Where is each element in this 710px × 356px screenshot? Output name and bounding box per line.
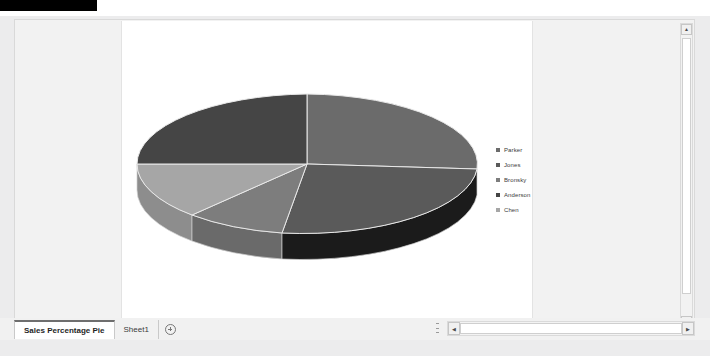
vertical-scrollbar[interactable]: ▲ ▼ (680, 23, 693, 328)
application-frame: Parker Jones Bronsky Anderson Chen (0, 16, 710, 356)
chart-object[interactable]: Parker Jones Bronsky Anderson Chen (121, 21, 533, 323)
legend-label: Bronsky (504, 177, 526, 183)
legend-swatch-jones (496, 163, 500, 167)
pie-chart-3d[interactable] (122, 21, 534, 323)
legend-item[interactable]: Bronsky (496, 173, 556, 187)
legend-item[interactable]: Chen (496, 203, 556, 217)
sheet-tab-bar: Sales Percentage Pie Sheet1 ◀ ▶ (0, 318, 710, 340)
scroll-up-arrow-icon[interactable]: ▲ (681, 24, 692, 35)
legend-label: Parker (504, 147, 522, 153)
legend-item[interactable]: Jones (496, 158, 556, 172)
add-sheet-button[interactable] (159, 320, 183, 339)
legend-swatch-anderson (496, 193, 500, 197)
horizontal-scrollbar-thumb[interactable] (460, 323, 682, 334)
vertical-scrollbar-thumb[interactable] (682, 38, 691, 294)
sheet-tab-sales-percentage-pie[interactable]: Sales Percentage Pie (14, 320, 115, 339)
legend-swatch-chen (496, 208, 500, 212)
horizontal-scrollbar[interactable]: ◀ ▶ (447, 321, 695, 336)
legend-label: Anderson (504, 192, 531, 198)
plus-circle-icon (165, 324, 176, 335)
legend-item[interactable]: Anderson (496, 188, 556, 202)
worksheet-surface: Parker Jones Bronsky Anderson Chen (14, 19, 695, 324)
legend-label: Jones (504, 162, 521, 168)
chart-legend[interactable]: Parker Jones Bronsky Anderson Chen (496, 143, 556, 218)
scroll-right-arrow-icon[interactable]: ▶ (682, 322, 694, 335)
legend-item[interactable]: Parker (496, 143, 556, 157)
scroll-left-arrow-icon[interactable]: ◀ (448, 322, 460, 335)
sheet-tab-strip: Sales Percentage Pie Sheet1 (14, 320, 183, 339)
legend-swatch-parker (496, 148, 500, 152)
horizontal-scrollbar-track[interactable] (460, 322, 682, 335)
window-title-bar-strip (0, 0, 97, 11)
legend-label: Chen (504, 207, 519, 213)
sheet-tab-sheet1[interactable]: Sheet1 (115, 320, 159, 339)
legend-swatch-bronsky (496, 178, 500, 182)
tab-split-handle[interactable] (436, 323, 440, 333)
